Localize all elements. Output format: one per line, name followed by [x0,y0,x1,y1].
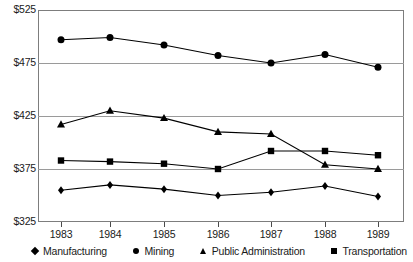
legend-label: Mining [144,245,174,257]
chart-legend: ManufacturingMiningPublic Administration… [0,243,413,259]
x-tick-label: 1985 [141,228,187,240]
legend-label: Manufacturing [43,245,107,257]
y-axis-labels: $525$475$425$375$325 [0,0,36,262]
x-tick-label: 1984 [87,228,133,240]
legend-label: Transportation [342,245,407,257]
x-tick-label: 1986 [195,228,241,240]
y-tick-label: $325 [0,216,36,227]
legend-item-public-administration[interactable]: Public Administration [199,245,305,257]
gridline-475 [38,63,404,64]
legend-label: Public Administration [212,245,305,257]
x-tick-mark [271,222,272,227]
x-tick-mark [325,222,326,227]
gridline-425 [38,116,404,117]
legend-item-mining[interactable]: Mining [131,245,174,257]
gridline-375 [38,169,404,170]
x-tick-mark [164,222,165,227]
x-tick-label: 1989 [355,228,401,240]
x-tick-label: 1987 [248,228,294,240]
y-tick-label: $375 [0,163,36,174]
x-tick-label: 1988 [302,228,348,240]
x-tick-mark [378,222,379,227]
legend-item-transportation[interactable]: Transportation [329,245,407,257]
x-tick-mark [61,222,62,227]
triangle-marker-icon [199,247,208,256]
x-tick-label: 1983 [38,228,84,240]
x-tick-mark [110,222,111,227]
y-tick-label: $525 [0,4,36,15]
circle-marker-icon [131,247,140,256]
diamond-marker-icon [30,247,39,256]
y-tick-label: $475 [0,57,36,68]
line-chart: $525$475$425$375$325 1983198419851986198… [0,0,413,262]
x-tick-mark [218,222,219,227]
y-tick-label: $425 [0,110,36,121]
square-marker-icon [329,247,338,256]
legend-item-manufacturing[interactable]: Manufacturing [30,245,107,257]
